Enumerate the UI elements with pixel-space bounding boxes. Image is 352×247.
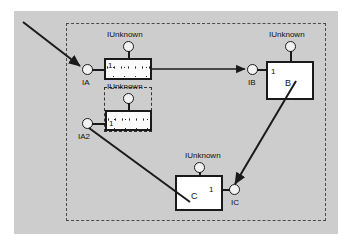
component-a2-iunknown-label: IUnknown	[107, 83, 143, 91]
interface-ia-label: IA	[82, 79, 90, 87]
interface-ia-stem	[92, 69, 105, 71]
component-c-name: C	[191, 192, 198, 201]
component-a-iunknown-label: IUnknown	[107, 31, 143, 39]
component-c-box[interactable]	[175, 175, 223, 211]
component-b-name: B	[285, 79, 291, 88]
component-c-iunknown-stem	[199, 172, 201, 176]
component-a2-iunknown-stem	[128, 103, 130, 111]
diagram-canvas: 1 IUnknown IA 1 IUnknown IA2 1 B IUnknow…	[0, 0, 352, 247]
interface-ic-stem	[222, 189, 230, 191]
interface-ib-stem	[257, 69, 267, 71]
component-a-iunknown-stem	[128, 51, 130, 59]
component-a-number: 1	[108, 62, 112, 70]
component-b-iunknown-label: IUnknown	[269, 31, 305, 39]
component-c-number: 1	[209, 186, 213, 194]
interface-ic-lollipop[interactable]	[229, 184, 240, 195]
interface-ib-label: IB	[248, 79, 256, 87]
interface-ia2-label: IA2	[78, 133, 90, 141]
component-c-iunknown-label: IUnknown	[185, 152, 221, 160]
component-b-iunknown-stem	[290, 51, 292, 62]
component-a2-number: 1	[109, 120, 113, 128]
interface-ia2-stem	[92, 123, 106, 125]
interface-ic-label: IC	[231, 199, 239, 207]
component-b-number: 1	[271, 68, 275, 76]
